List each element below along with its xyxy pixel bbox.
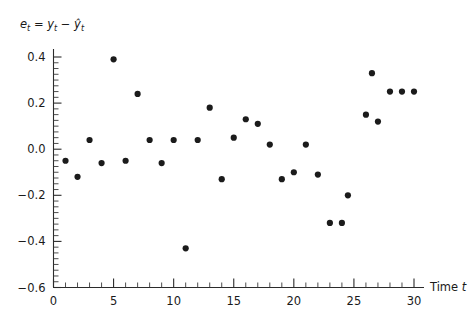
- ylabel-equals: =: [34, 17, 44, 31]
- data-point: [243, 116, 249, 122]
- y-axis-tick-labels: −0.6−0.4−0.20.00.20.4: [18, 50, 46, 295]
- ylabel-y: y: [46, 17, 54, 31]
- x-tick-label: 30: [407, 294, 422, 308]
- y-tick-label: 0.0: [27, 142, 45, 156]
- x-axis-major-ticks: [54, 279, 415, 288]
- data-point: [267, 141, 273, 147]
- data-point: [375, 118, 381, 124]
- ylabel-yhat: ŷ: [73, 17, 81, 31]
- x-tick-label: 20: [287, 294, 302, 308]
- data-point: [291, 169, 297, 175]
- scatter-plot-figure: et = yt − ŷt −0.6−0.4−0.20.00.20.4 05101…: [0, 0, 476, 326]
- ylabel-sub-3: t: [81, 24, 85, 33]
- data-point: [339, 220, 345, 226]
- y-tick-label: −0.2: [18, 188, 46, 202]
- data-point: [171, 137, 177, 143]
- data-point: [411, 88, 417, 94]
- ylabel-minus: −: [61, 17, 71, 31]
- data-point: [86, 137, 92, 143]
- x-tick-label: 25: [347, 294, 362, 308]
- ylabel-e: e: [20, 17, 27, 31]
- data-point: [110, 56, 116, 62]
- y-axis-label: et = yt − ŷt: [20, 17, 85, 33]
- data-point: [147, 137, 153, 143]
- data-point: [219, 176, 225, 182]
- data-point: [195, 137, 201, 143]
- y-tick-label: 0.4: [27, 50, 45, 64]
- chart-canvas: et = yt − ŷt −0.6−0.4−0.20.00.20.4 05101…: [0, 0, 476, 326]
- x-axis-label: Time t: [429, 280, 467, 294]
- svg-text:Time t: Time t: [429, 280, 467, 294]
- data-point: [183, 245, 189, 251]
- xlabel-symbol: t: [462, 280, 467, 294]
- x-tick-label: 10: [166, 294, 181, 308]
- svg-text:et = yt − ŷt: et = yt − ŷt: [20, 17, 85, 33]
- data-point-series: [62, 56, 417, 251]
- data-point: [327, 220, 333, 226]
- data-point: [363, 112, 369, 118]
- data-point: [387, 88, 393, 94]
- data-point: [399, 88, 405, 94]
- data-point: [315, 171, 321, 177]
- y-tick-label: −0.6: [18, 281, 46, 295]
- data-point: [74, 174, 80, 180]
- x-tick-label: 15: [226, 294, 241, 308]
- data-point: [303, 141, 309, 147]
- data-point: [231, 135, 237, 141]
- xlabel-word: Time: [429, 280, 458, 294]
- x-tick-label: 5: [110, 294, 117, 308]
- data-point: [279, 176, 285, 182]
- data-point: [207, 105, 213, 111]
- y-tick-label: −0.4: [18, 234, 46, 248]
- data-point: [135, 91, 141, 97]
- data-point: [255, 121, 261, 127]
- data-point: [159, 160, 165, 166]
- data-point: [98, 160, 104, 166]
- data-point: [62, 158, 68, 164]
- x-tick-label: 0: [50, 294, 57, 308]
- data-point: [369, 70, 375, 76]
- y-axis-minor-ticks: [54, 63, 59, 282]
- data-point: [345, 192, 351, 198]
- axes-group: [53, 49, 424, 288]
- data-point: [123, 158, 129, 164]
- y-tick-label: 0.2: [27, 96, 45, 110]
- x-axis-tick-labels: 051015202530: [50, 294, 421, 308]
